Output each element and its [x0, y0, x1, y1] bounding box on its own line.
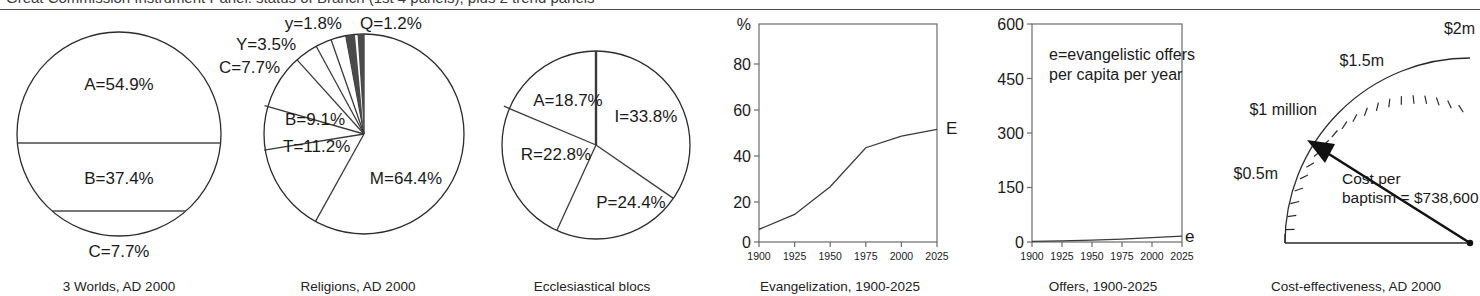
gauge-label-0-5m: $0.5m: [1234, 165, 1278, 182]
offers-xtick-1975: 1975: [1110, 250, 1134, 262]
gauge-annotation-line-1: Cost per: [1342, 170, 1401, 187]
gauge-arc: [1285, 58, 1470, 243]
evangelization-xtick-1900: 1900: [747, 250, 771, 262]
caption-religions: Religions, AD 2000: [238, 279, 478, 294]
offers-note-line-2: per capita per year: [1049, 66, 1183, 83]
caption-evangelization: Evangelization, 1900-2025: [706, 279, 974, 294]
three-worlds-chart: A=54.9% B=37.4% C=7.7%: [0, 12, 238, 270]
panel-cost-effectiveness: $0.5m $1 million $1.5m $2m Cost per bapt…: [1232, 12, 1480, 296]
offers-ytick-300: 300: [997, 125, 1024, 142]
panel-three-worlds: A=54.9% B=37.4% C=7.7% 3 Worlds, AD 2000: [0, 12, 238, 296]
offers-ytick-150: 150: [997, 179, 1024, 196]
page-title-strip: Great Commission Instrument Panel: statu…: [0, 0, 1480, 9]
offers-ytick-600: 600: [997, 16, 1024, 33]
evangelization-ytick-80: 80: [733, 56, 751, 73]
evangelization-xtick-1950: 1950: [819, 250, 843, 262]
evangelization-ytick-40: 40: [733, 148, 751, 165]
caption-three-worlds: 3 Worlds, AD 2000: [0, 279, 238, 294]
panel-offers: 600 450 300 150 0 1900 1925: [974, 12, 1232, 296]
offers-xtick-1950: 1950: [1080, 250, 1104, 262]
caption-offers: Offers, 1900-2025: [974, 279, 1232, 294]
religions-label-b: B=9.1%: [285, 110, 345, 129]
evangelization-ytick-0: 0: [742, 234, 751, 251]
religions-pie-chart: M=64.4% T=11.2% B=9.1% C=7.7% Y=3.5% y=1…: [238, 12, 478, 270]
evangelization-xtick-2000: 2000: [890, 250, 914, 262]
offers-xtick-1900: 1900: [1020, 250, 1044, 262]
evangelization-ytick-60: 60: [733, 102, 751, 119]
evangelization-y-unit: %: [737, 16, 751, 33]
caption-ecclesiastical-blocs: Ecclesiastical blocs: [478, 279, 706, 294]
evangelization-xtick-1925: 1925: [783, 250, 807, 262]
evangelization-xtick-1975: 1975: [854, 250, 878, 262]
religions-label-c: C=7.7%: [219, 58, 280, 77]
offers-xtick-2000: 2000: [1140, 250, 1164, 262]
evangelization-x-axis: 1900 1925 1950 1975 2000 2025: [747, 242, 949, 262]
blocs-label-p: P=24.4%: [596, 193, 665, 212]
offers-xtick-2025: 2025: [1170, 250, 1194, 262]
offers-series-end-label: e: [1185, 227, 1194, 246]
three-worlds-label-a: A=54.9%: [84, 75, 153, 94]
ecclesiastical-blocs-pie-chart: I=33.8% P=24.4% R=22.8% A=18.7%: [478, 12, 706, 270]
gauge-frame: [1285, 58, 1470, 243]
gauge-needle-pivot: [1467, 240, 1473, 246]
page-title: Great Commission Instrument Panel: statu…: [6, 0, 595, 6]
religions-label-t: T=11.2%: [283, 137, 350, 156]
evangelization-xtick-2025: 2025: [925, 250, 949, 262]
three-worlds-label-c: C=7.7%: [89, 242, 150, 261]
blocs-label-a: A=18.7%: [533, 91, 602, 110]
gauge-annotation-line-2: baptism = $738,600: [1342, 189, 1479, 206]
evangelization-plot-frame: [759, 24, 937, 242]
offers-note-line-1: e=evangelistic offers: [1049, 46, 1195, 63]
three-worlds-circle: [17, 32, 221, 236]
blocs-label-i: I=33.8%: [615, 107, 678, 126]
cost-effectiveness-gauge-chart: $0.5m $1 million $1.5m $2m Cost per bapt…: [1232, 12, 1480, 270]
panel-ecclesiastical-blocs: I=33.8% P=24.4% R=22.8% A=18.7% Ecclesia…: [478, 12, 706, 296]
blocs-label-r: R=22.8%: [521, 145, 591, 164]
title-divider: [0, 9, 1480, 10]
gauge-label-1-million: $1 million: [1249, 101, 1317, 118]
panel-evangelization: % 80 60 40 20 0 1900: [706, 12, 974, 296]
evangelization-y-axis: % 80 60 40 20 0: [733, 16, 759, 251]
evangelization-series-end-label: E: [946, 119, 957, 138]
offers-y-axis: 600 450 300 150 0: [997, 16, 1032, 251]
religions-label-y-lower: y=1.8%: [285, 14, 342, 33]
religions-label-m: M=64.4%: [370, 169, 442, 188]
evangelization-line-chart: % 80 60 40 20 0 1900: [706, 12, 974, 270]
offers-xtick-1925: 1925: [1050, 250, 1074, 262]
offers-x-axis: 1900 1925 1950 1975 2000 2025: [1020, 242, 1194, 262]
gauge-label-2m: $2m: [1444, 20, 1475, 37]
gauge-label-1-5m: $1.5m: [1340, 52, 1384, 69]
offers-ytick-0: 0: [1015, 234, 1024, 251]
religions-label-y-upper: Y=3.5%: [236, 35, 296, 54]
offers-ytick-450: 450: [997, 71, 1024, 88]
caption-cost-effectiveness: Cost-effectiveness, AD 2000: [1232, 279, 1480, 294]
panel-religions: M=64.4% T=11.2% B=9.1% C=7.7% Y=3.5% y=1…: [238, 12, 478, 296]
gauge-needle-arrowhead: [1307, 140, 1335, 163]
religions-label-q: Q=1.2%: [360, 14, 422, 33]
offers-line-chart: 600 450 300 150 0 1900 1925: [974, 12, 1232, 270]
three-worlds-label-b: B=37.4%: [84, 169, 153, 188]
evangelization-ytick-20: 20: [733, 194, 751, 211]
